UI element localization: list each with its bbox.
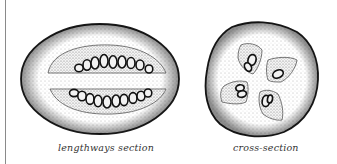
cross-section-drawing: [206, 22, 319, 136]
lengthways-section-drawing: [21, 24, 179, 134]
lengthways-section-caption: lengthways section: [58, 142, 154, 153]
cucumber-illustration: [0, 0, 337, 164]
cross-section-caption: cross-section: [233, 142, 299, 153]
